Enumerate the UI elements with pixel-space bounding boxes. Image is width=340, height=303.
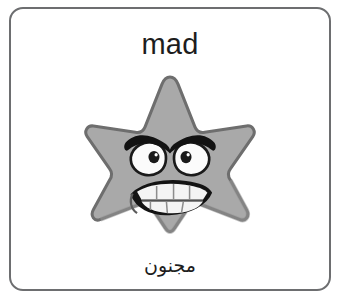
- left-eye-glint: [155, 153, 158, 157]
- flashcard: mad: [9, 7, 331, 291]
- right-eye: [174, 142, 209, 175]
- arabic-word-label: مجنون: [11, 252, 329, 278]
- english-word-label: mad: [11, 27, 329, 61]
- angry-star-illustration: [81, 69, 259, 247]
- left-pupil: [148, 151, 159, 163]
- right-pupil: [181, 151, 192, 163]
- left-eye: [131, 142, 166, 175]
- mouth: [131, 181, 211, 214]
- angry-star-icon: [81, 69, 259, 247]
- right-eye-glint: [187, 153, 190, 157]
